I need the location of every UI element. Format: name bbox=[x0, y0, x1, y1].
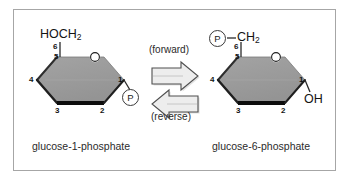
carbon-number-4-left: 4 bbox=[29, 76, 33, 84]
phosphate-group-left[interactable]: P bbox=[122, 89, 139, 106]
hoch2-text: HOCH bbox=[40, 27, 77, 41]
carbon-number-3-left: 3 bbox=[55, 107, 59, 115]
glucose-6-phosphate-structure bbox=[218, 38, 310, 103]
reverse-arrow-label: (reverse) bbox=[151, 112, 191, 122]
hoch2-subscript: 2 bbox=[77, 32, 82, 42]
carbon-number-6-left: 6 bbox=[53, 43, 57, 51]
carbon-number-5-right: 5 bbox=[235, 53, 239, 61]
carbon-number-1-left: 1 bbox=[118, 76, 122, 84]
carbon-number-5-left: 5 bbox=[54, 53, 58, 61]
bond-c1-oh-right bbox=[305, 80, 310, 92]
carbon-number-6-right: 6 bbox=[234, 43, 238, 51]
forward-arrow-label: (forward) bbox=[149, 45, 189, 55]
phosphate-group-right[interactable]: P bbox=[209, 30, 226, 47]
ch2-group-label: CH2 bbox=[237, 31, 260, 44]
caption-glucose-6-phosphate: glucose-6-phosphate bbox=[212, 141, 310, 152]
caption-glucose-1-phosphate: glucose-1-phosphate bbox=[32, 141, 130, 152]
carbon-number-2-right: 2 bbox=[281, 107, 285, 115]
ring-oxygen-circle-right bbox=[272, 53, 281, 62]
carbon-number-1-right: 1 bbox=[299, 76, 303, 84]
diagram-figure: HOCH2 6 5 4 3 2 1 P (forward) (reverse) … bbox=[0, 0, 349, 189]
carbon-number-2-left: 2 bbox=[100, 107, 104, 115]
hydroxyl-group-right: OH bbox=[304, 93, 323, 106]
carbon-number-3-right: 3 bbox=[236, 107, 240, 115]
ch2-subscript: 2 bbox=[255, 35, 260, 45]
ring-oxygen-circle-left bbox=[91, 53, 100, 62]
forward-arrow[interactable] bbox=[152, 62, 200, 92]
carbon-number-4-right: 4 bbox=[210, 76, 214, 84]
ch2-text: CH bbox=[237, 30, 255, 44]
glucose-1-phosphate-structure bbox=[37, 42, 130, 103]
hoch2-group-label: HOCH2 bbox=[40, 28, 82, 41]
